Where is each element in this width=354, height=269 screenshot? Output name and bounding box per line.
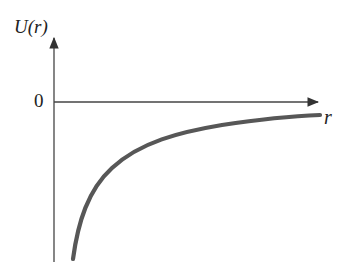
y-axis-label: U(r) (14, 16, 48, 38)
x-axis-label: r (324, 106, 332, 129)
zero-tick-label: 0 (34, 90, 44, 112)
potential-curve (73, 115, 320, 259)
chart-canvas (0, 0, 354, 269)
